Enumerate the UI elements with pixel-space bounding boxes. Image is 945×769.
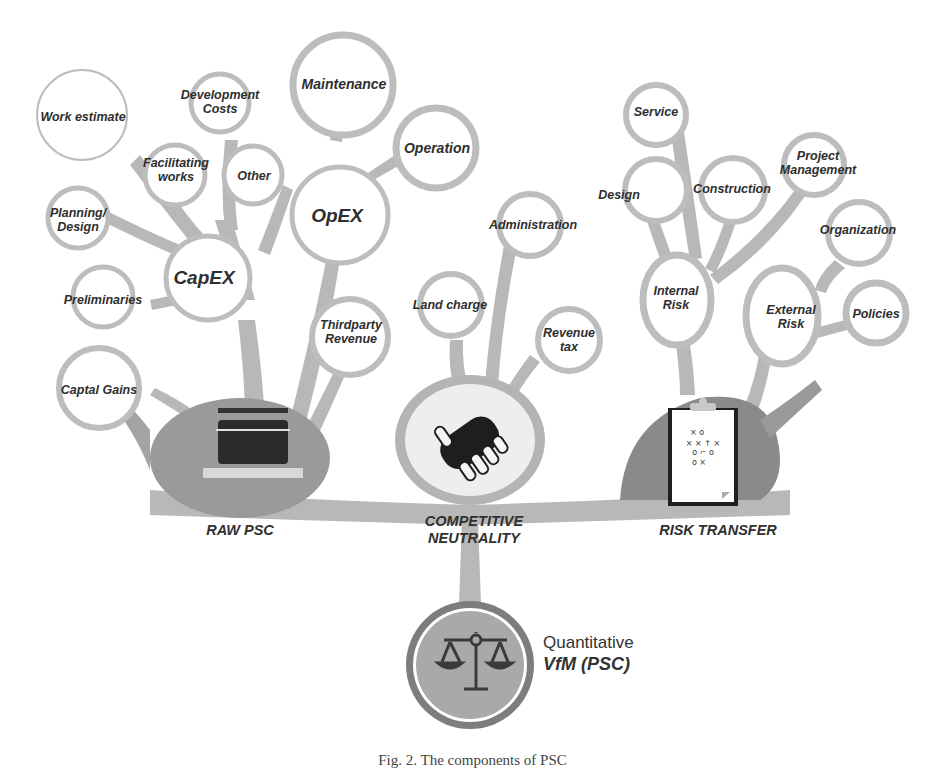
node-internal-risk: InternalRisk: [653, 284, 698, 313]
node-planning-design-line2: Design: [57, 220, 99, 234]
node-project-management: ProjectManagement: [780, 149, 856, 178]
node-internal-risk-line2: Risk: [663, 298, 689, 312]
root-label-line2: VfM (PSC): [543, 653, 634, 676]
node-development-costs-line1: Development: [181, 88, 260, 102]
node-other: Other: [237, 169, 270, 183]
node-planning-design: Planning/Design: [50, 206, 106, 235]
clipboard-strategy-icon: × o × × ↑ × o ⌐ o o ×: [668, 398, 738, 506]
category-cn-line2: NEUTRALITY: [428, 530, 520, 546]
figure-caption: Fig. 2. The components of PSC: [0, 752, 945, 769]
node-opex: OpEX: [311, 205, 363, 227]
svg-text:o ⌐ o: o ⌐ o: [692, 448, 714, 457]
node-capex: CapEX: [173, 267, 234, 289]
node-planning-design-line1: Planning/: [50, 206, 106, 220]
root-label-line1: Quantitative: [543, 632, 634, 653]
root-vfm-node: [406, 601, 534, 729]
category-competitive-neutrality: COMPETITIVENEUTRALITY: [425, 513, 523, 546]
svg-text:× o: × o: [690, 428, 704, 437]
node-thirdparty-revenue: ThirdpartyRevenue: [320, 318, 382, 347]
node-project-management-line2: Management: [780, 163, 856, 177]
node-maintenance: Maintenance: [302, 76, 387, 92]
category-risk-transfer: RISK TRANSFER: [659, 522, 777, 539]
svg-text:o ×: o ×: [692, 458, 706, 467]
node-operation: Operation: [404, 140, 470, 156]
node-facilitating-works-line1: Facilitating: [143, 156, 209, 170]
node-revenue-tax-line2: tax: [560, 340, 578, 354]
node-captal-gains: Captal Gains: [61, 383, 137, 397]
node-external-risk-line1: External: [766, 303, 815, 317]
node-facilitating-works: Facilitatingworks: [143, 156, 209, 185]
node-revenue-tax-line1: Revenue: [543, 326, 595, 340]
node-external-risk: ExternalRisk: [766, 303, 815, 332]
node-thirdparty-revenue-line1: Thirdparty: [320, 318, 382, 332]
node-revenue-tax: Revenuetax: [543, 326, 595, 355]
node-organization: Organization: [820, 223, 896, 237]
root-label: Quantitative VfM (PSC): [543, 632, 634, 676]
node-administration: Administration: [489, 218, 577, 232]
node-work-estimate: Work estimate: [40, 110, 125, 124]
svg-text:× × ↑ ×: × × ↑ ×: [686, 439, 720, 448]
node-design: Design: [598, 188, 640, 202]
node-service: Service: [634, 105, 678, 119]
node-construction: Construction: [693, 182, 771, 196]
node-external-risk-line2: Risk: [778, 317, 804, 331]
category-raw-psc: RAW PSC: [206, 522, 274, 539]
node-development-costs: DevelopmentCosts: [181, 88, 260, 117]
node-land-charge: Land charge: [413, 298, 487, 312]
node-thirdparty-revenue-line2: Revenue: [325, 332, 377, 346]
node-preliminaries: Preliminaries: [64, 293, 143, 307]
category-cn-line1: COMPETITIVE: [425, 513, 523, 529]
node-project-management-line1: Project: [797, 149, 839, 163]
node-facilitating-works-line2: works: [158, 170, 194, 184]
node-development-costs-line2: Costs: [203, 102, 238, 116]
node-internal-risk-line1: Internal: [653, 284, 698, 298]
node-policies: Policies: [852, 307, 899, 321]
